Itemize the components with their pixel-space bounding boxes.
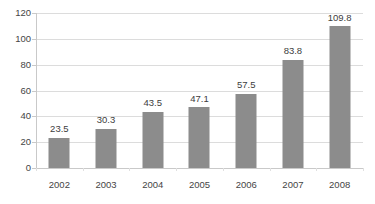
y-axis-tick-label: 100 [0,34,36,44]
x-axis-tick-mark [223,168,224,171]
y-axis-ticks: 020406080100120 [0,0,36,204]
x-axis-tick-label: 2004 [129,180,176,190]
y-axis-tick-label: 40 [0,112,36,122]
x-axis-tick-mark [36,168,37,171]
y-axis-tick-label: 80 [0,60,36,70]
x-axis-tick-mark [83,168,84,171]
y-axis-tick-label: 120 [0,8,36,18]
x-axis-tick-mark [270,168,271,171]
x-axis-tick-mark [129,168,130,171]
x-axis-tick-label: 2002 [36,180,83,190]
x-axis-ticks: 2002200320042005200620072008 [36,0,363,204]
x-axis-tick-mark [176,168,177,171]
x-axis-tick-label: 2008 [316,180,363,190]
x-axis-tick-label: 2006 [223,180,270,190]
x-axis-tick-mark [363,168,364,171]
bar-chart: 020406080100120 23.530.343.547.157.583.8… [0,0,375,204]
x-axis-tick-label: 2003 [83,180,130,190]
x-axis-tick-label: 2005 [176,180,223,190]
y-axis-tick-label: 20 [0,137,36,147]
y-axis-tick-label: 0 [0,163,36,173]
y-axis-tick-label: 60 [0,86,36,96]
x-axis-tick-label: 2007 [270,180,317,190]
x-axis-tick-mark [316,168,317,171]
